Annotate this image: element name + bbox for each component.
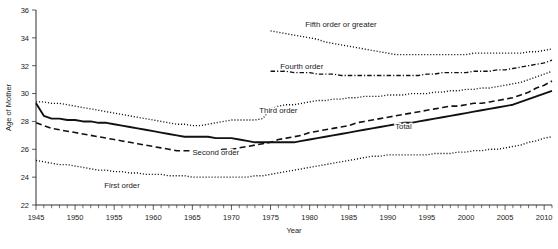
y-tick-label: 22 xyxy=(21,201,29,210)
x-tick-label: 1960 xyxy=(145,213,162,222)
y-tick-label: 24 xyxy=(21,173,29,182)
x-tick-label: 1995 xyxy=(419,213,436,222)
series-label-first-order: First order xyxy=(104,181,140,190)
x-tick-label: 1975 xyxy=(262,213,279,222)
y-tick-label: 36 xyxy=(21,6,29,15)
x-tick-label: 1945 xyxy=(28,213,45,222)
series-label-second-order: Second order xyxy=(192,148,239,157)
series-label-third-order: Third order xyxy=(259,106,298,115)
series-label-fifth-order-or-greater: Fifth order or greater xyxy=(305,20,377,29)
x-tick-label: 2010 xyxy=(536,213,553,222)
x-tick-label: 1950 xyxy=(67,213,84,222)
x-tick-label: 1990 xyxy=(379,213,396,222)
x-tick-label: 1955 xyxy=(106,213,123,222)
y-tick-label: 28 xyxy=(21,117,29,126)
y-tick-label: 26 xyxy=(21,145,29,154)
chart-container: 2224262830323436 19451950195519601965197… xyxy=(0,0,558,249)
x-tick-label: 2000 xyxy=(458,213,475,222)
y-tick-label: 32 xyxy=(21,62,29,71)
age-of-mother-by-birth-order-line-chart: 2224262830323436 19451950195519601965197… xyxy=(0,0,558,249)
x-axis-title: Year xyxy=(286,226,302,235)
x-tick-label: 2005 xyxy=(497,213,514,222)
x-tick-label: 1970 xyxy=(223,213,240,222)
x-tick-label: 1965 xyxy=(184,213,201,222)
x-tick-label: 1985 xyxy=(340,213,357,222)
series-label-total: Total xyxy=(395,122,412,131)
series-label-fourth-order: Fourth order xyxy=(280,62,323,71)
y-axis-title: Age of Mother xyxy=(4,83,13,131)
y-tick-label: 30 xyxy=(21,89,29,98)
x-tick-label: 1980 xyxy=(301,213,318,222)
y-tick-label: 34 xyxy=(21,34,29,43)
